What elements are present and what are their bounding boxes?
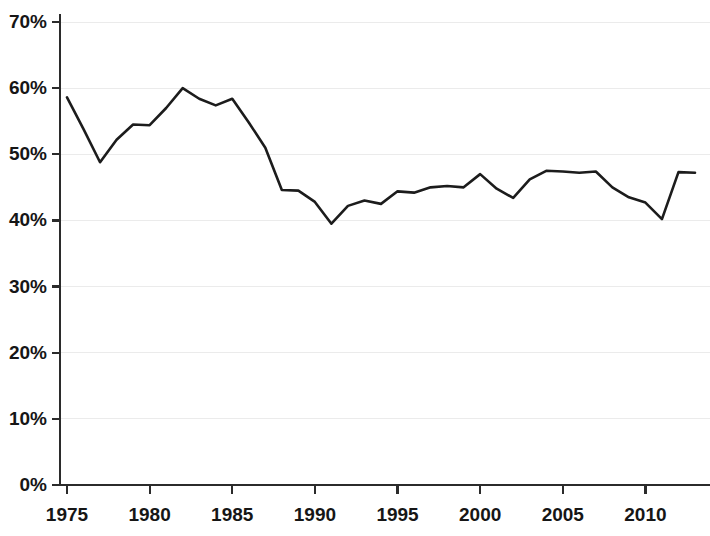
x-tick-label-1990: 1990: [294, 504, 336, 525]
x-tick-label-1985: 1985: [211, 504, 254, 525]
y-tick-label-50: 50%: [9, 143, 47, 164]
x-tick-label-2000: 2000: [459, 504, 501, 525]
y-tick-label-10: 10%: [9, 408, 47, 429]
y-axis-ticks: [52, 22, 60, 485]
x-axis-ticks: [67, 485, 645, 494]
x-tick-label-2010: 2010: [624, 504, 666, 525]
axes: [60, 14, 710, 485]
x-tick-label-1995: 1995: [376, 504, 419, 525]
x-axis-tick-labels: 19751980198519901995200020052010: [46, 504, 667, 525]
y-tick-label-40: 40%: [9, 209, 47, 230]
y-tick-label-0: 0%: [20, 474, 48, 495]
line-chart: 0%10%20%30%40%50%60%70% 1975198019851990…: [0, 0, 710, 536]
y-tick-label-30: 30%: [9, 276, 47, 297]
x-tick-label-1975: 1975: [46, 504, 89, 525]
y-axis-tick-labels: 0%10%20%30%40%50%60%70%: [9, 11, 47, 495]
series-line: [67, 88, 695, 224]
data-series: [67, 88, 695, 224]
y-tick-label-20: 20%: [9, 342, 47, 363]
gridlines: [60, 22, 710, 419]
chart-container: 0%10%20%30%40%50%60%70% 1975198019851990…: [0, 0, 710, 536]
x-tick-label-1980: 1980: [128, 504, 170, 525]
x-tick-label-2005: 2005: [542, 504, 585, 525]
y-tick-label-60: 60%: [9, 77, 47, 98]
y-tick-label-70: 70%: [9, 11, 47, 32]
